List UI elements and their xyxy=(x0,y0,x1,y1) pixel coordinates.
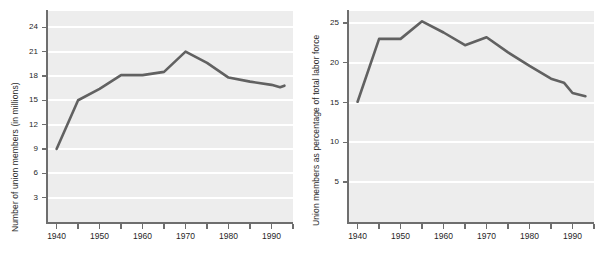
x-tick-label: 1980 xyxy=(510,231,550,241)
x-minor-tick xyxy=(163,224,164,229)
x-tick-label: 1960 xyxy=(123,231,163,241)
data-line-union-percentage xyxy=(358,21,586,101)
y-tick-label: 24 xyxy=(18,22,38,31)
y-tick-label: 5 xyxy=(319,177,339,186)
x-minor-tick xyxy=(292,224,293,229)
x-tick xyxy=(443,224,444,229)
y-axis-line xyxy=(46,10,48,224)
x-tick xyxy=(185,224,186,229)
x-tick-label: 1970 xyxy=(467,231,507,241)
y-axis-line xyxy=(347,10,349,224)
y-tick-label: 20 xyxy=(319,58,339,67)
x-tick xyxy=(572,224,573,229)
y-tick-label: 12 xyxy=(18,120,38,129)
x-tick xyxy=(99,224,100,229)
x-minor-tick xyxy=(593,224,594,229)
x-tick xyxy=(486,224,487,229)
y-tick-label: 9 xyxy=(18,144,38,153)
x-minor-tick xyxy=(507,224,508,229)
x-tick xyxy=(400,224,401,229)
y-tick xyxy=(42,197,47,198)
y-tick xyxy=(42,51,47,52)
x-minor-tick xyxy=(421,224,422,229)
y-tick xyxy=(343,142,348,143)
x-tick xyxy=(271,224,272,229)
y-tick xyxy=(42,27,47,28)
y-tick-label: 15 xyxy=(319,98,339,107)
x-tick-label: 1950 xyxy=(80,231,120,241)
x-minor-tick xyxy=(120,224,121,229)
x-minor-tick xyxy=(206,224,207,229)
y-tick-label: 10 xyxy=(319,137,339,146)
figure-container: Number of union members (in millions) 36… xyxy=(0,0,602,260)
y-tick xyxy=(42,100,47,101)
data-line-union-members xyxy=(57,52,285,149)
y-tick xyxy=(42,173,47,174)
x-axis-line xyxy=(347,222,594,224)
y-tick xyxy=(343,102,348,103)
y-tick xyxy=(42,148,47,149)
y-tick xyxy=(42,75,47,76)
x-minor-tick xyxy=(550,224,551,229)
x-minor-tick xyxy=(77,224,78,229)
x-tick-label: 1940 xyxy=(338,231,378,241)
x-minor-tick xyxy=(249,224,250,229)
y-tick-label: 21 xyxy=(18,47,38,56)
x-tick-label: 1980 xyxy=(209,231,249,241)
x-tick xyxy=(529,224,530,229)
x-tick xyxy=(142,224,143,229)
chart-panel-right: Union members as percentage of total lab… xyxy=(301,0,602,260)
series-svg-left xyxy=(0,0,301,260)
x-tick xyxy=(357,224,358,229)
x-tick-label: 1970 xyxy=(166,231,206,241)
series-svg-right xyxy=(301,0,602,260)
x-minor-tick xyxy=(378,224,379,229)
y-tick xyxy=(343,22,348,23)
x-tick-label: 1950 xyxy=(381,231,421,241)
chart-panel-left: Number of union members (in millions) 36… xyxy=(0,0,301,260)
x-minor-tick xyxy=(464,224,465,229)
x-tick xyxy=(56,224,57,229)
y-tick xyxy=(42,124,47,125)
x-tick-label: 1960 xyxy=(424,231,464,241)
y-tick-label: 3 xyxy=(18,193,38,202)
x-tick-label: 1990 xyxy=(252,231,292,241)
y-tick xyxy=(343,62,348,63)
x-axis-line xyxy=(46,222,293,224)
y-tick-label: 18 xyxy=(18,71,38,80)
y-tick-label: 6 xyxy=(18,168,38,177)
y-tick-label: 15 xyxy=(18,95,38,104)
x-tick-label: 1990 xyxy=(553,231,593,241)
x-tick-label: 1940 xyxy=(37,231,77,241)
y-tick xyxy=(343,181,348,182)
y-tick-label: 25 xyxy=(319,18,339,27)
x-tick xyxy=(228,224,229,229)
